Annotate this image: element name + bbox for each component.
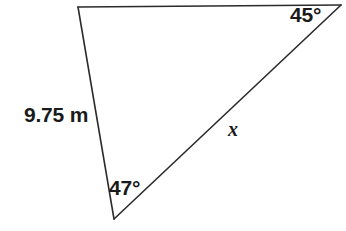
hypotenuse-edge <box>114 5 341 219</box>
triangle-figure: 9.75 m 45° 47° x <box>0 0 346 231</box>
angle-bottom-label: 47° <box>109 177 140 198</box>
unknown-side-label: x <box>228 119 238 139</box>
side-length-label: 9.75 m <box>24 104 88 125</box>
angle-top-right-label: 45° <box>290 4 321 25</box>
